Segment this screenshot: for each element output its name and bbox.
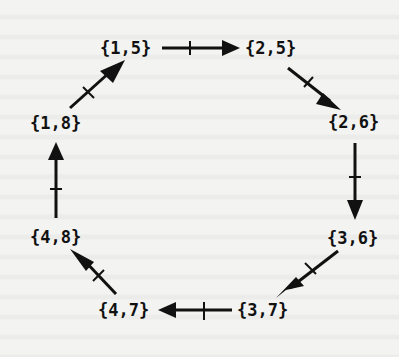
arrowhead-icon <box>158 302 176 318</box>
edge-2-6-to-3-6 <box>347 143 363 220</box>
arrowhead-icon <box>316 93 341 110</box>
node-1-8: {1,8} <box>30 113 81 133</box>
node-1-5: {1,5} <box>100 38 151 58</box>
node-4-8: {4,8} <box>30 227 81 247</box>
cycle-diagram <box>0 0 399 357</box>
edge-4-7-to-4-8 <box>70 249 116 294</box>
node-4-7: {4,7} <box>98 300 149 320</box>
node-3-7: {3,7} <box>237 300 288 320</box>
node-3-6: {3,6} <box>327 228 378 248</box>
node-2-5: {2,5} <box>245 38 296 58</box>
edge-2-5-to-2-6 <box>288 68 341 110</box>
edge-1-5-to-2-5 <box>162 40 240 56</box>
arrowhead-icon <box>347 200 363 220</box>
edge-3-6-to-3-7 <box>276 251 338 298</box>
edge-4-8-to-1-8 <box>48 142 64 218</box>
edge-3-7-to-4-7 <box>158 302 232 320</box>
arrowhead-icon <box>48 142 64 160</box>
node-2-6: {2,6} <box>328 112 379 132</box>
edge-1-8-to-1-5 <box>70 60 125 108</box>
arrowhead-icon <box>222 40 240 56</box>
